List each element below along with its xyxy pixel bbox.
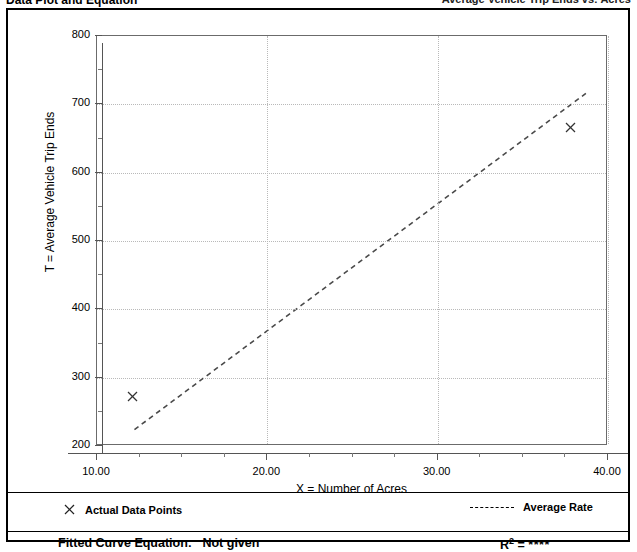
plot-area bbox=[96, 35, 607, 445]
x-tick-major bbox=[266, 453, 267, 460]
page-title: Data Plot and Equation bbox=[6, 0, 137, 7]
y-tick-major bbox=[95, 445, 102, 446]
x-tick-minor bbox=[181, 453, 182, 457]
x-marker-icon bbox=[64, 501, 75, 519]
legend-item-actual-data-points: Actual Data Points bbox=[64, 501, 182, 519]
dashed-line-icon bbox=[470, 507, 514, 508]
legend-label-actual-data-points: Actual Data Points bbox=[85, 504, 182, 516]
y-gridline bbox=[97, 173, 606, 174]
y-tick-minor bbox=[98, 411, 102, 412]
y-tick-label: 600 bbox=[44, 165, 90, 179]
x-tick-label: 20.00 bbox=[236, 465, 296, 477]
legend-label-average-rate: Average Rate bbox=[523, 501, 593, 513]
y-tick-major bbox=[95, 103, 102, 104]
y-tick-major bbox=[95, 377, 102, 378]
y-tick-minor bbox=[98, 206, 102, 207]
legend-item-average-rate: Average Rate bbox=[470, 501, 593, 513]
r-squared-value: R2 = **** bbox=[500, 536, 550, 552]
x-tick-major bbox=[437, 453, 438, 460]
data-point-marker bbox=[565, 122, 576, 133]
y-tick-label: 400 bbox=[44, 301, 90, 315]
y-tick-label: 800 bbox=[44, 28, 90, 42]
y-gridline bbox=[97, 241, 606, 242]
y-tick-label: 300 bbox=[44, 370, 90, 384]
data-point-marker bbox=[127, 391, 138, 402]
x-tick-minor bbox=[309, 453, 310, 457]
x-tick-minor bbox=[224, 453, 225, 457]
x-gridline bbox=[438, 36, 439, 444]
x-axis-line bbox=[68, 453, 628, 454]
y-tick-major bbox=[95, 308, 102, 309]
x-tick-minor bbox=[479, 453, 480, 457]
y-tick-label: 700 bbox=[44, 96, 90, 110]
chart-figure-frame: T = Average Vehicle Trip Ends X = Number… bbox=[6, 8, 630, 542]
legend-divider-top bbox=[8, 492, 630, 493]
y-tick-minor bbox=[98, 343, 102, 344]
header-subtitle: Average Vehicle Trip Ends vs: Acres bbox=[442, 0, 631, 5]
y-gridline bbox=[97, 378, 606, 379]
y-tick-major bbox=[95, 35, 102, 36]
y-gridline bbox=[97, 104, 606, 105]
x-tick-major bbox=[607, 453, 608, 460]
x-tick-label: 40.00 bbox=[577, 465, 637, 477]
x-tick-label: 30.00 bbox=[407, 465, 467, 477]
y-tick-label: 500 bbox=[44, 233, 90, 247]
r-squared-stars: **** bbox=[528, 538, 549, 552]
x-tick-minor bbox=[564, 453, 565, 457]
r-squared-label: R bbox=[500, 538, 509, 552]
x-gridline bbox=[608, 36, 609, 444]
y-tick-minor bbox=[98, 138, 102, 139]
x-axis-title: X = Number of Acres bbox=[96, 482, 607, 496]
fitted-curve-equation: Fitted Curve Equation: Not given bbox=[58, 536, 259, 550]
equation-value: Not given bbox=[202, 536, 259, 550]
y-tick-minor bbox=[98, 274, 102, 275]
y-tick-label: 200 bbox=[44, 438, 90, 452]
x-gridline bbox=[267, 36, 268, 444]
x-tick-minor bbox=[352, 453, 353, 457]
y-gridline bbox=[97, 309, 606, 310]
equation-label: Fitted Curve Equation: bbox=[58, 536, 192, 550]
x-tick-minor bbox=[139, 453, 140, 457]
x-tick-label: 10.00 bbox=[66, 465, 126, 477]
r-squared-equals: = bbox=[514, 538, 528, 552]
y-tick-minor bbox=[98, 69, 102, 70]
y-axis-line bbox=[102, 43, 103, 454]
x-tick-minor bbox=[394, 453, 395, 457]
x-tick-major bbox=[96, 453, 97, 460]
y-tick-major bbox=[95, 172, 102, 173]
legend-divider-bottom bbox=[8, 531, 630, 532]
x-tick-minor bbox=[522, 453, 523, 457]
y-tick-major bbox=[95, 240, 102, 241]
